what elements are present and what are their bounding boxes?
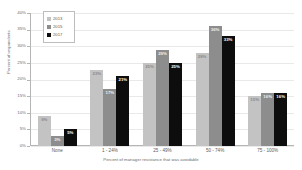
bar-value-label: 25% — [145, 65, 154, 69]
y-axis-tick-mark — [27, 96, 30, 97]
bar-value-label: 3% — [54, 138, 60, 142]
legend-item: 2017 — [47, 31, 72, 39]
y-axis-tick-label: 5% — [0, 127, 26, 131]
y-axis-tick-mark — [27, 80, 30, 81]
bar-chart: 0%5%10%15%20%25%30%35%40% Percent of res… — [0, 0, 302, 170]
y-axis-tick-mark — [27, 46, 30, 47]
bar: 29% — [156, 50, 169, 146]
y-axis: 0%5%10%15%20%25%30%35%40% — [0, 13, 30, 146]
y-axis-tick-label: 35% — [0, 27, 26, 31]
y-axis-title: Percent of respondents — [7, 17, 11, 87]
bar-value-label: 15% — [250, 98, 259, 102]
bar: 15% — [248, 96, 261, 146]
bar: 25% — [143, 63, 156, 146]
bar: 28% — [196, 53, 209, 146]
y-axis-tick-label: 15% — [0, 94, 26, 98]
x-axis-tick-label: 25 - 49% — [136, 148, 189, 153]
bar: 16% — [274, 93, 287, 146]
y-axis-tick-mark — [27, 30, 30, 31]
y-axis-tick-mark — [27, 63, 30, 64]
bar-value-label: 17% — [106, 91, 115, 95]
bar: 5% — [64, 129, 77, 146]
y-axis-tick-label: 25% — [0, 61, 26, 65]
legend: 201320152017 — [43, 11, 75, 43]
bar: 3% — [51, 136, 64, 146]
bar-value-label: 25% — [171, 65, 180, 69]
bar: 9% — [38, 116, 51, 146]
x-axis-tick-label: 75 - 100% — [241, 148, 294, 153]
legend-swatch — [47, 17, 51, 21]
bar-value-label: 28% — [198, 55, 207, 59]
y-axis-tick-mark — [27, 13, 30, 14]
legend-label: 2017 — [53, 33, 62, 37]
x-axis-tick-labels: None1 - 24%25 - 49%50 - 74%75 - 100% — [31, 148, 294, 153]
x-axis-title: Percent of manager resistance that was a… — [0, 158, 302, 162]
y-axis-tick-label: 20% — [0, 77, 26, 81]
bar: 36% — [209, 26, 222, 146]
gridline — [31, 146, 294, 147]
legend-item: 2013 — [47, 15, 72, 23]
legend-swatch — [47, 25, 51, 29]
bar: 16% — [261, 93, 274, 146]
legend-swatch — [47, 33, 51, 37]
x-axis-tick-label: 50 - 74% — [189, 148, 242, 153]
legend-label: 2013 — [53, 17, 62, 21]
bar-value-label: 23% — [93, 72, 102, 76]
bar-value-label: 36% — [211, 28, 220, 32]
bar-value-label: 29% — [158, 52, 167, 56]
bar-group: 25%29%25% — [136, 13, 189, 146]
bar-value-label: 9% — [41, 118, 47, 122]
legend-item: 2015 — [47, 23, 72, 31]
y-axis-tick-label: 40% — [0, 11, 26, 15]
bar-value-label: 33% — [224, 38, 233, 42]
y-axis-tick-label: 10% — [0, 111, 26, 115]
legend-label: 2015 — [53, 25, 62, 29]
bar-group: 28%36%33% — [189, 13, 242, 146]
bar: 23% — [90, 70, 103, 146]
bar: 17% — [103, 89, 116, 146]
x-axis-tick-label: 1 - 24% — [84, 148, 137, 153]
bar-value-label: 16% — [263, 95, 272, 99]
y-axis-tick-mark — [27, 113, 30, 114]
bar-group: 15%16%16% — [241, 13, 294, 146]
x-axis-tick-label: None — [31, 148, 84, 153]
y-axis-tick-mark — [27, 146, 30, 147]
y-axis-tick-label: 30% — [0, 44, 26, 48]
bar: 25% — [169, 63, 182, 146]
bar-value-label: 5% — [67, 131, 73, 135]
bar: 21% — [116, 76, 129, 146]
bar-group: 23%17%21% — [84, 13, 137, 146]
y-axis-tick-mark — [27, 129, 30, 130]
y-axis-tick-label: 0% — [0, 144, 26, 148]
bar: 33% — [222, 36, 235, 146]
bar-value-label: 16% — [276, 95, 285, 99]
bar-value-label: 21% — [119, 78, 128, 82]
